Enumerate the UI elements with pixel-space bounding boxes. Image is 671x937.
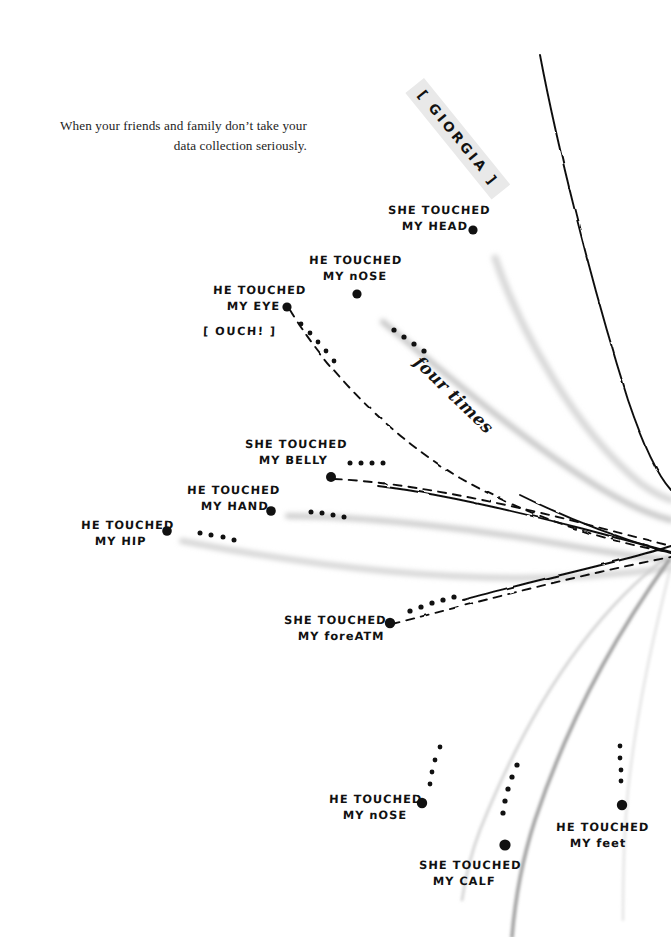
event-label-nose1: HE TOUCHEDMY nOSE bbox=[309, 253, 403, 284]
event-label-line2: MY nOSE bbox=[343, 808, 423, 824]
event-label-line2: MY EYE bbox=[227, 299, 307, 315]
event-label-line1: SHE TOUCHED bbox=[245, 437, 348, 451]
event-label-calf: SHE TOUCHEDMY CALF bbox=[419, 858, 522, 889]
event-label-line2: MY HEAD bbox=[402, 219, 491, 235]
event-dot-belly bbox=[326, 472, 336, 482]
event-dot-feet bbox=[617, 800, 627, 810]
event-label-line1: SHE TOUCHED bbox=[284, 613, 387, 627]
event-label-belly: SHE TOUCHEDMY BELLY bbox=[245, 437, 348, 468]
tally-dot-trails bbox=[198, 322, 624, 816]
event-label-line1: HE TOUCHED bbox=[556, 820, 649, 834]
event-label-line2: MY nOSE bbox=[323, 269, 403, 285]
event-label-line1: HE TOUCHED bbox=[81, 518, 174, 532]
event-label-nose2: HE TOUCHEDMY nOSE bbox=[329, 792, 423, 823]
event-label-line2: MY feet bbox=[570, 836, 650, 852]
event-label-line2: MY CALF bbox=[433, 874, 522, 890]
caption-text: When your friends and family don’t take … bbox=[42, 116, 307, 157]
event-label-line2: MY HAND bbox=[201, 499, 281, 515]
event-label-line2: MY BELLY bbox=[259, 453, 348, 469]
event-label-line2: MY foreATM bbox=[298, 629, 387, 645]
event-label-line1: SHE TOUCHED bbox=[388, 203, 491, 217]
event-label-feet: HE TOUCHEDMY feet bbox=[556, 820, 650, 851]
event-label-eye: HE TOUCHEDMY EYE bbox=[213, 283, 307, 314]
event-label-hip: HE TOUCHEDMY HIP bbox=[81, 518, 175, 549]
event-label-line1: HE TOUCHED bbox=[329, 792, 422, 806]
event-dot-calf bbox=[499, 839, 510, 850]
event-label-line2: MY HIP bbox=[95, 534, 175, 550]
event-label-forearm: SHE TOUCHEDMY foreATM bbox=[284, 613, 387, 644]
illustration-page: When your friends and family don’t take … bbox=[0, 0, 671, 937]
event-label-line1: HE TOUCHED bbox=[309, 253, 402, 267]
ouch-annotation: [ OUCH! ] bbox=[203, 325, 277, 338]
event-label-line1: HE TOUCHED bbox=[213, 283, 306, 297]
event-label-line1: SHE TOUCHED bbox=[419, 858, 522, 872]
event-label-hand: HE TOUCHEDMY HAND bbox=[187, 483, 281, 514]
event-label-head: SHE TOUCHEDMY HEAD bbox=[388, 203, 491, 234]
event-label-line1: HE TOUCHED bbox=[187, 483, 280, 497]
event-dot-nose1 bbox=[352, 289, 361, 298]
